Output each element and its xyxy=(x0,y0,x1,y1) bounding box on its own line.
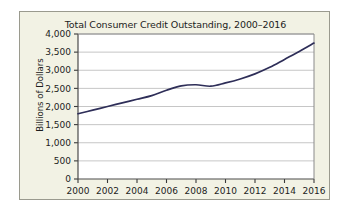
x-tick-marks xyxy=(78,179,314,183)
svg-text:4,000: 4,000 xyxy=(45,29,71,39)
svg-text:2006: 2006 xyxy=(155,186,178,196)
y-tick-labels: 05001,0001,5002,0002,5003,0003,5004,000 xyxy=(45,29,71,184)
svg-text:3,500: 3,500 xyxy=(45,47,71,57)
svg-text:2004: 2004 xyxy=(126,186,149,196)
svg-text:2000: 2000 xyxy=(67,186,90,196)
plot-area: 05001,0001,5002,0002,5003,0003,5004,000 … xyxy=(20,12,331,201)
svg-text:1,000: 1,000 xyxy=(45,138,71,148)
svg-text:2002: 2002 xyxy=(96,186,119,196)
svg-text:500: 500 xyxy=(54,156,71,166)
svg-text:0: 0 xyxy=(65,174,71,184)
svg-text:2010: 2010 xyxy=(214,186,237,196)
svg-text:2,500: 2,500 xyxy=(45,84,71,94)
svg-text:2008: 2008 xyxy=(185,186,208,196)
x-tick-labels: 200020022004200620082010201220142016 xyxy=(67,186,326,196)
svg-text:3,000: 3,000 xyxy=(45,65,71,75)
svg-text:2012: 2012 xyxy=(244,186,267,196)
svg-text:2014: 2014 xyxy=(273,186,296,196)
chart-figure: Total Consumer Credit Outstanding, 2000–… xyxy=(19,11,330,200)
svg-text:2016: 2016 xyxy=(303,186,326,196)
svg-text:2,000: 2,000 xyxy=(45,102,71,112)
svg-text:1,500: 1,500 xyxy=(45,120,71,130)
